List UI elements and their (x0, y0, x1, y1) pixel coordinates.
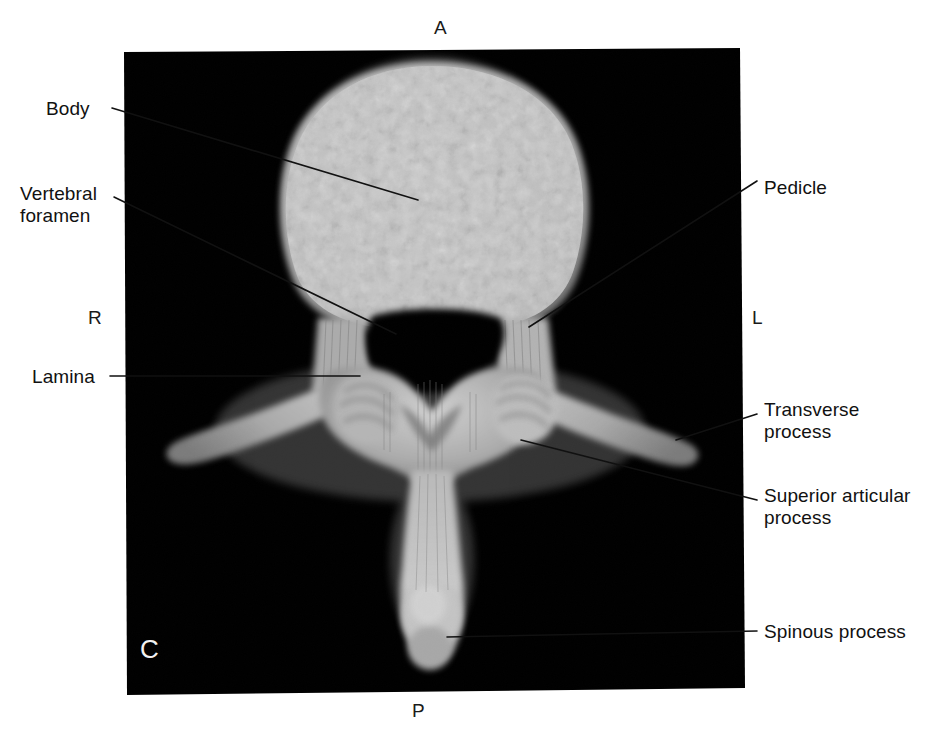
callout-label-pedicle: Pedicle (764, 177, 827, 199)
callout-label-transverse-process: Transverse process (764, 399, 859, 443)
figure-stage: Body Vertebral foramen Lamina Pedicle Tr… (0, 0, 946, 730)
callout-label-spinous-process: Spinous process (764, 621, 906, 643)
callout-label-body: Body (46, 98, 90, 120)
orientation-marker-anterior: A (434, 18, 447, 37)
orientation-marker-right: R (88, 308, 102, 327)
orientation-marker-posterior: P (412, 701, 425, 720)
callout-label-vertebral-foramen: Vertebral foramen (20, 183, 97, 227)
vertebra-volume-render (124, 48, 746, 696)
callout-label-superior-articular-process: Superior articular process (764, 485, 910, 529)
callout-label-lamina: Lamina (32, 366, 95, 388)
figure-panel-letter: C (140, 636, 159, 662)
orientation-marker-left: L (752, 308, 763, 327)
